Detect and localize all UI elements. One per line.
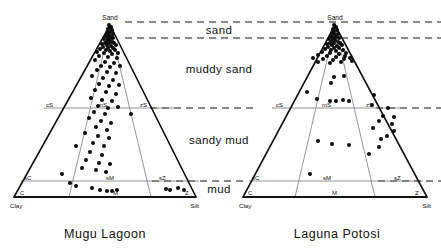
data-point <box>107 136 111 140</box>
data-point <box>339 60 343 64</box>
potosi-data-points <box>305 23 396 176</box>
potosi-apex-label: Sand <box>327 14 343 21</box>
data-point <box>377 145 381 149</box>
data-point <box>96 104 100 108</box>
data-point <box>106 106 110 110</box>
data-point <box>100 153 104 157</box>
caption-mugu-lagoon: Mugu Lagoon <box>64 227 146 241</box>
sediment-ternary-figure: Sand Clay Silt cS mS zS sC sM sZ C M Z S… <box>0 0 441 248</box>
data-point <box>347 99 351 103</box>
potosi-right-corner-label: Silt <box>422 202 431 209</box>
mugu-divider-right <box>110 26 151 197</box>
data-point <box>129 112 133 116</box>
data-point <box>321 57 325 61</box>
data-point <box>91 141 95 145</box>
data-point <box>342 57 346 61</box>
data-point <box>106 55 110 59</box>
data-point <box>110 189 114 193</box>
potosi-class-C: C <box>248 190 253 196</box>
data-point <box>341 48 345 52</box>
potosi-left-corner-label: Clay <box>239 202 252 209</box>
data-point <box>305 90 309 94</box>
zone-label-sandy-mud: sandy mud <box>189 134 249 146</box>
data-point <box>84 158 88 162</box>
data-point <box>330 142 334 146</box>
data-point <box>176 186 180 190</box>
data-point <box>341 98 345 102</box>
data-point <box>311 56 315 60</box>
data-point <box>97 54 101 58</box>
mugu-apex-label: Sand <box>102 14 118 21</box>
data-point <box>370 103 374 107</box>
data-point <box>367 152 371 156</box>
data-point <box>98 188 102 192</box>
data-point <box>97 161 101 165</box>
data-point <box>102 144 106 148</box>
data-point <box>110 99 114 103</box>
data-point <box>379 137 383 141</box>
data-point <box>118 64 122 68</box>
data-point <box>332 75 336 79</box>
mugu-class-cS: cS <box>46 102 53 108</box>
mugu-class-sC: sC <box>24 175 32 181</box>
data-point <box>315 97 319 101</box>
data-point <box>110 52 114 56</box>
data-point <box>104 90 108 94</box>
data-point <box>371 126 375 130</box>
data-point <box>340 43 344 47</box>
data-point <box>108 65 112 69</box>
data-point <box>74 184 78 188</box>
data-point <box>337 36 341 40</box>
data-point <box>316 139 320 143</box>
potosi-class-sZ: sZ <box>394 175 401 181</box>
data-point <box>105 189 109 193</box>
mugu-right-corner-label: Silt <box>190 202 199 209</box>
potosi-class-sM: sM <box>323 175 331 181</box>
data-point <box>116 51 120 55</box>
data-point <box>316 60 320 64</box>
data-point <box>105 70 109 74</box>
data-point <box>334 99 338 103</box>
data-point <box>323 47 327 51</box>
data-point <box>115 56 119 60</box>
data-point <box>98 47 102 51</box>
data-point <box>116 105 120 109</box>
data-point <box>89 96 93 100</box>
data-point <box>93 88 97 92</box>
data-point <box>331 58 335 62</box>
data-point <box>103 112 107 116</box>
data-point <box>168 188 172 192</box>
data-point <box>112 61 116 65</box>
data-point <box>90 186 94 190</box>
data-point <box>114 43 118 47</box>
data-point <box>80 166 84 170</box>
data-point <box>68 181 72 185</box>
data-point <box>337 46 341 50</box>
data-point <box>316 53 320 57</box>
zone-label-muddy-sand: muddy sand <box>186 63 253 75</box>
data-point <box>385 134 389 138</box>
potosi-class-sC: sC <box>252 175 260 181</box>
data-point <box>115 188 119 192</box>
data-point <box>103 60 107 64</box>
data-point <box>372 93 376 97</box>
data-point <box>60 172 64 176</box>
data-point <box>334 49 338 53</box>
data-point <box>320 50 324 54</box>
data-point <box>96 134 100 138</box>
data-point <box>328 61 332 65</box>
data-point <box>350 59 354 63</box>
data-point <box>107 84 111 88</box>
data-point <box>308 172 312 176</box>
data-point <box>111 78 115 82</box>
data-point <box>74 144 78 148</box>
data-point <box>88 150 92 154</box>
data-point <box>342 74 346 78</box>
data-point <box>94 125 98 129</box>
data-point <box>328 99 332 103</box>
data-point <box>99 119 103 123</box>
mugu-class-sZ: sZ <box>159 175 166 181</box>
data-point <box>95 50 99 54</box>
data-point <box>100 98 104 102</box>
mugu-class-C: C <box>20 190 25 196</box>
